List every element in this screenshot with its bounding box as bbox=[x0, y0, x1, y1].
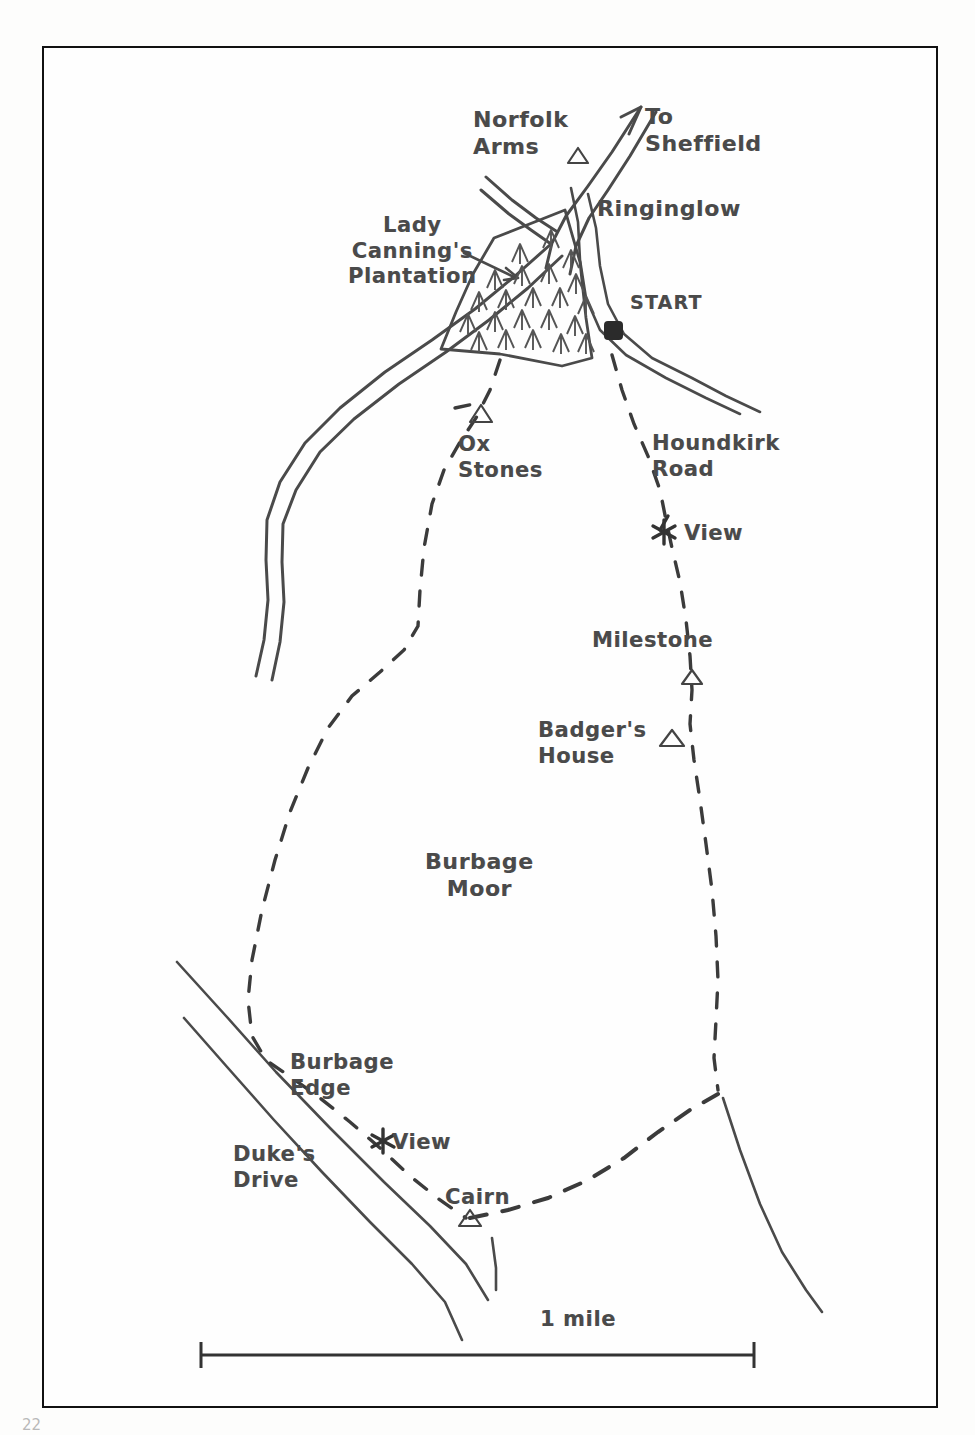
label-milestone: Milestone bbox=[592, 628, 713, 654]
line-below-cairn bbox=[492, 1238, 496, 1290]
label-ringinglow: Ringinglow bbox=[597, 196, 741, 223]
milestone-marker bbox=[682, 670, 702, 684]
label-lady-cannings-plantation: Lady Canning's Plantation bbox=[348, 213, 477, 290]
label-norfolk-arms: Norfolk Arms bbox=[473, 107, 568, 161]
line-lower-right bbox=[723, 1098, 822, 1312]
norfolk-arms-marker bbox=[568, 148, 588, 163]
map-drawing: .road { fill:none; stroke:#4a4a4a; strok… bbox=[0, 0, 975, 1435]
road-west-junction bbox=[481, 177, 556, 244]
page-canvas: .road { fill:none; stroke:#4a4a4a; strok… bbox=[0, 0, 975, 1435]
label-scale-1-mile: 1 mile bbox=[540, 1307, 616, 1333]
page-number: 22 bbox=[22, 1416, 41, 1434]
badgers-house-marker bbox=[660, 730, 684, 746]
label-cairn: Cairn bbox=[445, 1185, 510, 1211]
label-start: START bbox=[630, 291, 703, 314]
label-houndkirk-road: Houndkirk Road bbox=[652, 431, 780, 482]
scale-bar bbox=[200, 1342, 755, 1368]
label-view-south: View bbox=[392, 1130, 451, 1156]
label-to-sheffield: To Sheffield bbox=[645, 104, 762, 158]
label-dukes-drive: Duke's Drive bbox=[233, 1142, 316, 1193]
label-view-north: View bbox=[684, 521, 743, 547]
label-badgers-house: Badger's House bbox=[538, 718, 647, 769]
label-burbage-moor: Burbage Moor bbox=[425, 849, 534, 903]
trail-east-houndkirk bbox=[470, 355, 718, 1218]
label-ox-stones: Ox Stones bbox=[458, 432, 543, 483]
start-marker bbox=[605, 322, 622, 339]
label-burbage-edge: Burbage Edge bbox=[290, 1050, 394, 1101]
view-south-marker bbox=[372, 1129, 394, 1153]
plantation-trees bbox=[460, 230, 594, 354]
